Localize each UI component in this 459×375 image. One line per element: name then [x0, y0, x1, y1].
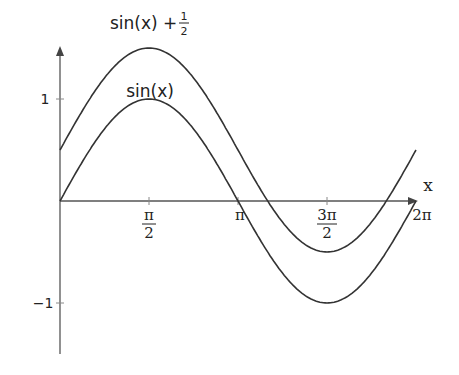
upper-curve-label-frac-den: 2: [181, 25, 188, 38]
x-tick-label-pi: π: [235, 206, 245, 224]
y-tick-label-neg1: −1: [33, 295, 54, 311]
upper-curve-label-frac-num: 1: [181, 10, 188, 23]
x-tick-label-pi-half-den: 2: [144, 224, 154, 242]
y-tick-label-1: 1: [41, 91, 50, 107]
x-axis-arrow-icon: [408, 197, 418, 205]
sine-chart: 1 −1 π 2 π 3π 2 2π x sin(x) + 1 2 sin(x): [0, 0, 459, 375]
lower-curve-label: sin(x): [126, 81, 174, 101]
y-axis-arrow-icon: [56, 46, 64, 56]
x-tick-label-pi-half-num: π: [144, 206, 154, 224]
x-tick-label-3pi-half-num: 3π: [317, 206, 337, 224]
x-tick-label-3pi-half-den: 2: [322, 224, 332, 242]
x-tick-label-2pi: 2π: [412, 206, 432, 224]
x-axis-label: x: [423, 175, 433, 195]
upper-curve-label: sin(x) +: [110, 13, 177, 33]
